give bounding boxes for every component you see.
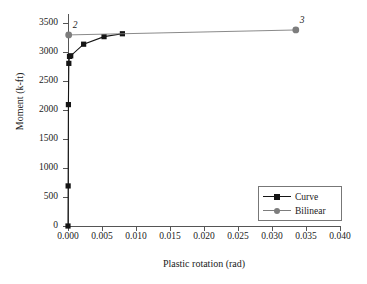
point-label: 2 — [73, 21, 78, 31]
data-point-curve — [68, 53, 73, 58]
data-point-curve — [66, 102, 71, 107]
data-point-curve — [66, 61, 71, 66]
legend-item-curve[interactable]: Curve — [263, 190, 337, 204]
data-point-curve — [101, 34, 106, 39]
series-plot — [0, 0, 367, 284]
data-point-bilinear — [292, 27, 299, 34]
data-point-curve — [66, 183, 71, 188]
data-point-curve — [81, 42, 86, 47]
legend-label-curve: Curve — [291, 192, 318, 202]
legend-label-bilinear: Bilinear — [291, 206, 326, 216]
bilinear-marker-icon — [263, 206, 291, 216]
data-point-bilinear — [65, 32, 72, 39]
point-label: 3 — [300, 16, 305, 26]
data-point-curve — [65, 223, 70, 228]
curve-marker-icon — [263, 192, 291, 202]
series-line-curve — [68, 34, 122, 226]
chart-legend: Curve Bilinear — [258, 186, 342, 221]
legend-item-bilinear[interactable]: Bilinear — [263, 204, 337, 218]
chart-figure: 0500100015002000250030003500 0.0000.0050… — [0, 0, 367, 284]
series-line-bilinear — [69, 30, 296, 35]
